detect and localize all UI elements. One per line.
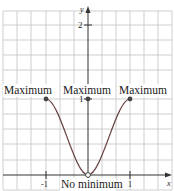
max-point-left: [44, 97, 49, 102]
label-maximum-center: Maximum: [63, 84, 111, 96]
y-axis-label: y: [79, 5, 84, 14]
parabola-chart: y 2 1 -1 1 x Maximum Maximum Maximum No …: [0, 0, 174, 191]
axes: [3, 10, 168, 190]
label-maximum-right: Maximum: [119, 84, 167, 96]
label-no-minimum: No minimum: [61, 178, 123, 190]
x-axis-label: x: [166, 179, 171, 188]
max-point-right: [128, 97, 133, 102]
x-axis-arrow-icon: [165, 173, 172, 178]
x-tick-neg1: -1: [41, 180, 48, 189]
y-axis-arrow-icon: [86, 6, 91, 13]
y-tick-2: 2: [78, 20, 83, 30]
max-point-center: [86, 97, 91, 102]
min-open-point: [86, 173, 91, 178]
label-maximum-left: Maximum: [4, 84, 52, 96]
x-tick-pos1: 1: [128, 180, 132, 189]
